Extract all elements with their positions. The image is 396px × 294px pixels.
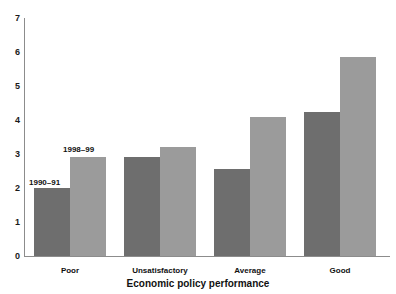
bar <box>34 188 70 256</box>
bar <box>304 112 340 257</box>
bar <box>214 169 250 256</box>
bar-group <box>214 18 286 256</box>
y-tick-label: 4 <box>4 116 20 125</box>
bar-group <box>304 18 376 256</box>
y-tick-label: 7 <box>4 14 20 23</box>
y-tick-label: 2 <box>4 184 20 193</box>
x-axis-line <box>24 256 390 257</box>
bar <box>250 117 286 256</box>
y-tick-label: 5 <box>4 82 20 91</box>
y-tick-label: 3 <box>4 150 20 159</box>
x-axis-title: Economic policy performance <box>0 278 396 289</box>
y-tick-label: 6 <box>4 48 20 57</box>
y-tick-label: 1 <box>4 218 20 227</box>
bar <box>124 157 160 256</box>
bar <box>340 57 376 256</box>
bar-group <box>124 18 196 256</box>
y-tick-label: 0 <box>4 252 20 261</box>
y-axis-tick-labels: 76543210 <box>0 0 20 294</box>
bar-group <box>34 18 106 256</box>
bar <box>160 147 196 256</box>
x-tick-label: Good <box>284 266 396 275</box>
bar <box>70 157 106 256</box>
bar-chart: 76543210 1990–91 1998–99 Economic policy… <box>0 0 396 294</box>
